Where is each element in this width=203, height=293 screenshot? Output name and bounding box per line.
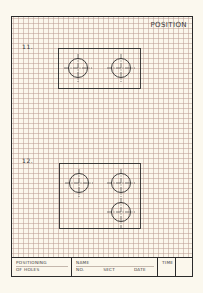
subject-cell: POSITIONING OF HOLES <box>12 258 72 276</box>
time-label: TIME <box>162 260 173 265</box>
name-label: NAME <box>76 260 89 265</box>
subject-line-1: POSITIONING <box>16 260 68 267</box>
no-sect-date-row: NO. SECT DATE <box>76 267 154 273</box>
sect-label: SECT <box>103 267 115 273</box>
name-field: NAME <box>76 260 154 267</box>
time-cell: TIME <box>158 258 176 276</box>
date-label: DATE <box>134 267 146 273</box>
drawing-sheet: POSITION 11. 12. POSITIONING OF HOLES NA… <box>11 16 193 277</box>
title-block: POSITIONING OF HOLES NAME NO. SECT DATE … <box>12 257 192 276</box>
sheet-title: POSITION <box>150 21 187 29</box>
figure-11-label: 11. <box>22 43 33 50</box>
figure-12-label: 12. <box>22 157 33 164</box>
grade-cell <box>176 258 192 276</box>
subject-line-2: OF HOLES <box>16 267 68 273</box>
name-cell: NAME NO. SECT DATE <box>72 258 158 276</box>
no-label: NO. <box>76 267 85 273</box>
